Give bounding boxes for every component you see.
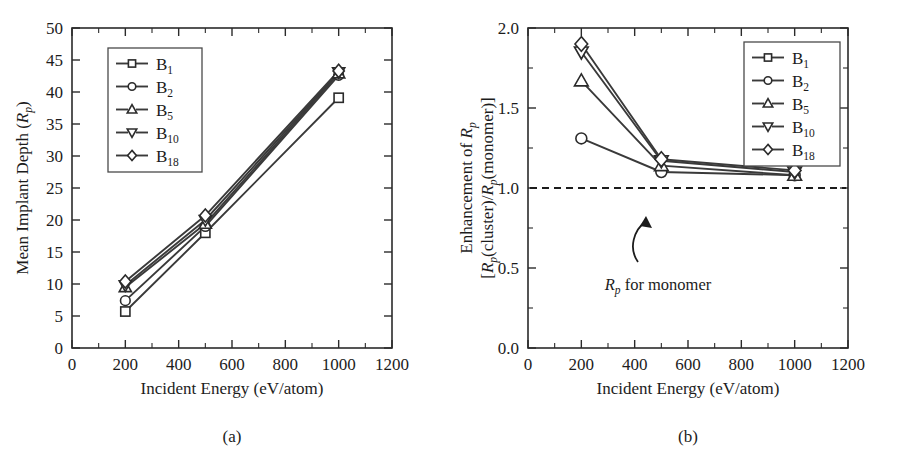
x-tick-label: 400 bbox=[166, 355, 192, 374]
legend-label-subscript: 2 bbox=[167, 87, 173, 99]
y-tick-label: 35 bbox=[46, 115, 63, 134]
y-tick-label: 2.0 bbox=[498, 19, 519, 38]
figure-container: 0200400600800100012000510152025303540455… bbox=[0, 0, 903, 466]
x-tick-label: 1200 bbox=[831, 355, 865, 374]
y-tick-label: 5 bbox=[55, 307, 64, 326]
legend-label-subscript: 18 bbox=[803, 150, 815, 162]
legend-label-subscript: 5 bbox=[803, 104, 809, 116]
panel-a-plot-area: 0200400600800100012000510152025303540455… bbox=[13, 19, 409, 446]
legend-marker-circle bbox=[128, 83, 136, 91]
datapoint-B2 bbox=[121, 296, 131, 306]
datapoint-B1 bbox=[121, 307, 130, 316]
y-tick-label: 25 bbox=[46, 179, 63, 198]
y-tick-label: 30 bbox=[46, 147, 63, 166]
legend-marker-circle bbox=[764, 77, 772, 85]
y-tick-label: 45 bbox=[46, 51, 63, 70]
x-tick-label: 1000 bbox=[322, 355, 356, 374]
y-tick-label: 0 bbox=[55, 339, 64, 358]
legend-label-subscript: 10 bbox=[167, 133, 179, 145]
datapoint-B1 bbox=[334, 93, 343, 102]
y-tick-label: 0.0 bbox=[498, 339, 519, 358]
panel-b-x-axis-title: Incident Energy (eV/atom) bbox=[597, 379, 780, 398]
panel-a: 0200400600800100012000510152025303540455… bbox=[0, 0, 451, 466]
y-tick-label: 40 bbox=[46, 83, 63, 102]
annotation-arrowhead bbox=[640, 216, 652, 228]
x-tick-label: 800 bbox=[273, 355, 299, 374]
x-tick-label: 800 bbox=[729, 355, 755, 374]
panel-a-y-axis-title: Mean Implant Depth (Rp) bbox=[13, 101, 35, 274]
legend-label-subscript: 18 bbox=[167, 156, 179, 168]
panel-b-y-axis-title-line1: Enhancement of Rp bbox=[457, 122, 479, 254]
panel-b-svg: 0200400600800100012000.00.51.01.52.0B1B2… bbox=[452, 0, 903, 466]
annotation-arrow bbox=[633, 221, 646, 262]
x-tick-label: 600 bbox=[219, 355, 245, 374]
x-tick-label: 400 bbox=[622, 355, 648, 374]
datapoint-B5 bbox=[574, 74, 588, 86]
panel-a-caption: (a) bbox=[223, 427, 242, 446]
panel-a-x-axis-title: Incident Energy (eV/atom) bbox=[141, 379, 324, 398]
x-tick-label: 0 bbox=[524, 355, 533, 374]
y-tick-label: 50 bbox=[46, 19, 63, 38]
panel-b-caption: (b) bbox=[678, 427, 698, 446]
x-tick-label: 600 bbox=[675, 355, 701, 374]
y-tick-label: 15 bbox=[46, 243, 63, 262]
panel-b-y-axis-title-line2: [Rp(cluster)/Rp(monomer)] bbox=[478, 97, 500, 278]
annotation-label: Rp for monomer bbox=[604, 275, 712, 297]
legend-marker-square bbox=[764, 54, 771, 61]
legend-label-subscript: 10 bbox=[803, 127, 815, 139]
y-tick-label: 10 bbox=[46, 275, 63, 294]
x-tick-label: 1200 bbox=[375, 355, 409, 374]
panel-b: 0200400600800100012000.00.51.01.52.0B1B2… bbox=[452, 0, 903, 466]
y-tick-label: 1.5 bbox=[498, 99, 519, 118]
y-tick-label: 0.5 bbox=[498, 259, 519, 278]
legend-label-subscript: 5 bbox=[167, 110, 173, 122]
x-tick-label: 0 bbox=[68, 355, 77, 374]
panel-b-plot-area: 0200400600800100012000.00.51.01.52.0B1B2… bbox=[457, 19, 865, 446]
legend-label-subscript: 2 bbox=[803, 81, 809, 93]
legend-label-subscript: 1 bbox=[167, 64, 173, 76]
legend-label-subscript: 1 bbox=[803, 58, 809, 70]
x-tick-label: 1000 bbox=[778, 355, 812, 374]
datapoint-B2 bbox=[576, 133, 587, 144]
panel-a-svg: 0200400600800100012000510152025303540455… bbox=[0, 0, 451, 466]
x-tick-label: 200 bbox=[569, 355, 595, 374]
y-tick-label: 1.0 bbox=[498, 179, 519, 198]
x-tick-label: 200 bbox=[113, 355, 139, 374]
y-tick-label: 20 bbox=[46, 211, 63, 230]
legend-marker-square bbox=[128, 60, 135, 67]
